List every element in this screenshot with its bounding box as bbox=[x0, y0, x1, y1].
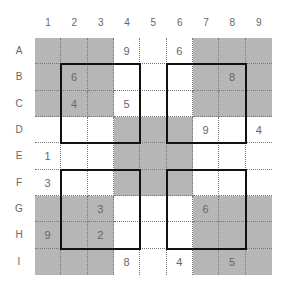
cell-D4[interactable] bbox=[114, 117, 140, 143]
cell-C1[interactable] bbox=[35, 91, 61, 117]
cell-I2[interactable] bbox=[61, 249, 87, 275]
cell-I4[interactable]: 8 bbox=[114, 249, 140, 275]
cell-B6[interactable] bbox=[167, 64, 193, 90]
cell-H2[interactable] bbox=[61, 222, 87, 248]
row-label: A bbox=[12, 38, 26, 64]
cell-C8[interactable] bbox=[219, 91, 245, 117]
cell-I9[interactable] bbox=[246, 249, 272, 275]
cell-H9[interactable] bbox=[246, 222, 272, 248]
row-label: G bbox=[12, 196, 26, 222]
column-label: 3 bbox=[88, 17, 114, 28]
cell-C7[interactable] bbox=[193, 91, 219, 117]
cell-D8[interactable] bbox=[219, 117, 245, 143]
cell-G2[interactable] bbox=[61, 196, 87, 222]
cell-D2[interactable] bbox=[61, 117, 87, 143]
cell-G4[interactable] bbox=[114, 196, 140, 222]
cell-A2[interactable] bbox=[61, 38, 87, 64]
cell-A4[interactable]: 9 bbox=[114, 38, 140, 64]
row-label: D bbox=[12, 117, 26, 143]
cell-F2[interactable] bbox=[61, 170, 87, 196]
sudoku-grid: 96684594133692845 bbox=[35, 38, 272, 275]
column-label: 1 bbox=[35, 17, 61, 28]
cell-F8[interactable] bbox=[219, 170, 245, 196]
cell-E7[interactable] bbox=[193, 143, 219, 169]
cell-D5[interactable] bbox=[140, 117, 166, 143]
row-label: H bbox=[12, 222, 26, 248]
column-label: 6 bbox=[167, 17, 193, 28]
cell-G5[interactable] bbox=[140, 196, 166, 222]
cell-A3[interactable] bbox=[88, 38, 114, 64]
cell-A1[interactable] bbox=[35, 38, 61, 64]
cell-B3[interactable] bbox=[88, 64, 114, 90]
cell-F9[interactable] bbox=[246, 170, 272, 196]
cell-H3[interactable]: 2 bbox=[88, 222, 114, 248]
cell-F3[interactable] bbox=[88, 170, 114, 196]
cell-F4[interactable] bbox=[114, 170, 140, 196]
row-label: F bbox=[12, 170, 26, 196]
cell-E2[interactable] bbox=[61, 143, 87, 169]
cell-E3[interactable] bbox=[88, 143, 114, 169]
cell-B8[interactable]: 8 bbox=[219, 64, 245, 90]
cell-G6[interactable] bbox=[167, 196, 193, 222]
cell-G8[interactable] bbox=[219, 196, 245, 222]
cell-F7[interactable] bbox=[193, 170, 219, 196]
cell-H6[interactable] bbox=[167, 222, 193, 248]
cell-F1[interactable]: 3 bbox=[35, 170, 61, 196]
cell-I6[interactable]: 4 bbox=[167, 249, 193, 275]
column-label: 4 bbox=[114, 17, 140, 28]
cell-C9[interactable] bbox=[246, 91, 272, 117]
cell-H4[interactable] bbox=[114, 222, 140, 248]
cell-D6[interactable] bbox=[167, 117, 193, 143]
row-label: E bbox=[12, 143, 26, 169]
cell-E9[interactable] bbox=[246, 143, 272, 169]
cell-D9[interactable]: 4 bbox=[246, 117, 272, 143]
cell-I1[interactable] bbox=[35, 249, 61, 275]
cell-E4[interactable] bbox=[114, 143, 140, 169]
cell-B2[interactable]: 6 bbox=[61, 64, 87, 90]
cell-C2[interactable]: 4 bbox=[61, 91, 87, 117]
cell-F6[interactable] bbox=[167, 170, 193, 196]
cell-G1[interactable] bbox=[35, 196, 61, 222]
cell-D1[interactable] bbox=[35, 117, 61, 143]
cell-G9[interactable] bbox=[246, 196, 272, 222]
cell-H8[interactable] bbox=[219, 222, 245, 248]
cell-E5[interactable] bbox=[140, 143, 166, 169]
column-label: 5 bbox=[140, 17, 166, 28]
column-label: 2 bbox=[61, 17, 87, 28]
row-label: I bbox=[12, 249, 26, 275]
cell-A7[interactable] bbox=[193, 38, 219, 64]
cell-E1[interactable]: 1 bbox=[35, 143, 61, 169]
row-label: B bbox=[12, 64, 26, 90]
cell-B7[interactable] bbox=[193, 64, 219, 90]
cell-E6[interactable] bbox=[167, 143, 193, 169]
cell-B9[interactable] bbox=[246, 64, 272, 90]
cell-G3[interactable]: 3 bbox=[88, 196, 114, 222]
cell-G7[interactable]: 6 bbox=[193, 196, 219, 222]
cell-D3[interactable] bbox=[88, 117, 114, 143]
cell-I8[interactable]: 5 bbox=[219, 249, 245, 275]
cell-I5[interactable] bbox=[140, 249, 166, 275]
cell-A8[interactable] bbox=[219, 38, 245, 64]
cell-B5[interactable] bbox=[140, 64, 166, 90]
cell-I7[interactable] bbox=[193, 249, 219, 275]
cell-C5[interactable] bbox=[140, 91, 166, 117]
cell-H7[interactable] bbox=[193, 222, 219, 248]
cell-A5[interactable] bbox=[140, 38, 166, 64]
cell-H5[interactable] bbox=[140, 222, 166, 248]
cell-C4[interactable]: 5 bbox=[114, 91, 140, 117]
cell-C3[interactable] bbox=[88, 91, 114, 117]
column-label: 8 bbox=[219, 17, 245, 28]
cell-I3[interactable] bbox=[88, 249, 114, 275]
cell-A6[interactable]: 6 bbox=[167, 38, 193, 64]
cell-C6[interactable] bbox=[167, 91, 193, 117]
cell-B4[interactable] bbox=[114, 64, 140, 90]
cell-B1[interactable] bbox=[35, 64, 61, 90]
cell-F5[interactable] bbox=[140, 170, 166, 196]
column-label: 7 bbox=[193, 17, 219, 28]
row-label: C bbox=[12, 91, 26, 117]
cell-E8[interactable] bbox=[219, 143, 245, 169]
cell-D7[interactable]: 9 bbox=[193, 117, 219, 143]
cell-H1[interactable]: 9 bbox=[35, 222, 61, 248]
column-label: 9 bbox=[246, 17, 272, 28]
cell-A9[interactable] bbox=[246, 38, 272, 64]
